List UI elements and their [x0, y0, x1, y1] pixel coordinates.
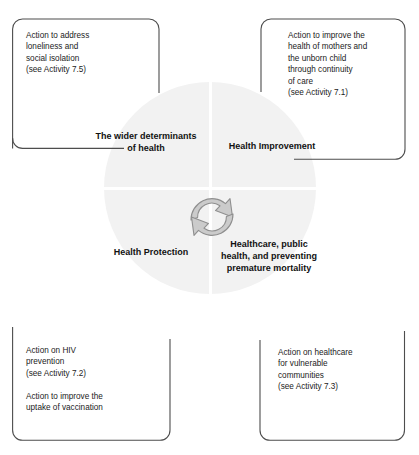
callout-vulnerable-communities: Action on healthcare for vulnerable comm…: [246, 331, 406, 441]
cropped-caption-sliver: [30, 0, 370, 3]
callout-loneliness: Action to address loneliness and social …: [12, 18, 160, 149]
callout-vulnerable-communities-text: Action on healthcare for vulnerable comm…: [278, 347, 353, 393]
callout-loneliness-text: Action to address loneliness and social …: [26, 30, 89, 76]
cyclic-arrows-icon: [181, 186, 243, 248]
callout-vaccination-text: Action to improve the uptake of vaccinat…: [26, 391, 103, 414]
callout-maternal-health-text: Action to improve the health of mothers …: [288, 30, 367, 98]
callout-hiv-vaccination: Action on HIV prevention (see Activity 7…: [12, 327, 172, 441]
public-health-framework-diagram: The wider determinants of health Health …: [0, 0, 419, 455]
callout-maternal-health: Action to improve the health of mothers …: [258, 18, 406, 160]
callout-hiv-text: Action on HIV prevention (see Activity 7…: [26, 345, 86, 379]
